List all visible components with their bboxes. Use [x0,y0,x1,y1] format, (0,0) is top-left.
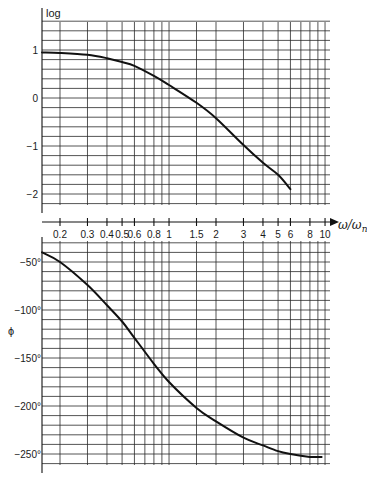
magnitude-axis-label: log [46,7,61,19]
x-tick-label: 0.6 [127,229,141,240]
x-tick-label: 0.8 [147,229,161,240]
x-tick-label: 5 [275,229,281,240]
x-tick-label: 1 [166,229,172,240]
magnitude-tick-label: −1 [27,141,39,152]
magnitude-grid [42,21,330,205]
bode-plot-svg: 0.20.30.40.50.60.811.52345681010−1−2−50°… [0,0,367,480]
x-tick-label: 0.2 [53,229,67,240]
phase-tick-label: −150° [14,353,41,364]
x-tick-label: 8 [307,229,313,240]
x-tick-label: 2 [213,229,219,240]
x-tick-label: 6 [288,229,294,240]
phase-axis-label: ϕ [8,325,14,337]
x-tick-label: 10 [319,229,331,240]
frequency-axis-title: ω/ωn [338,218,367,234]
x-tick-label: 0.4 [100,229,114,240]
phase-curve [42,252,322,457]
x-tick-label: 1.5 [190,229,204,240]
phase-tick-label: −50° [20,257,41,268]
x-tick-label: 0.3 [81,229,95,240]
phase-tick-label: −250° [14,449,41,460]
x-tick-label: 4 [260,229,266,240]
magnitude-tick-label: 0 [32,93,38,104]
phase-grid [42,241,330,465]
magnitude-curve [42,52,290,189]
phase-tick-label: −100° [14,305,41,316]
bode-plot-figure: 0.20.30.40.50.60.811.52345681010−1−2−50°… [0,0,367,480]
phase-tick-label: −200° [14,401,41,412]
magnitude-tick-label: −2 [27,189,39,200]
magnitude-tick-label: 1 [32,45,38,56]
x-tick-label: 3 [241,229,247,240]
